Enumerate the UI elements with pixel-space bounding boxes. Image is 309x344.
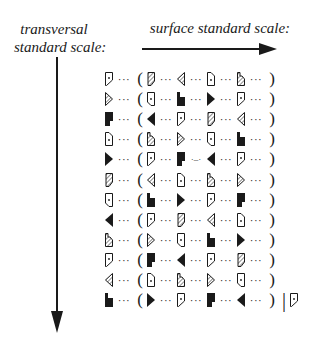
open-pentagon-dot-cut-icon bbox=[206, 71, 216, 87]
hatched-chevron-right-icon bbox=[206, 272, 216, 288]
black-wedge-left-icon bbox=[236, 292, 246, 308]
hatched-chevron-right-icon bbox=[236, 172, 246, 188]
hatched-slant-rect-icon bbox=[206, 111, 216, 127]
sequence-row: ···(············) bbox=[104, 129, 299, 149]
open-pentagon-dot-icon bbox=[206, 192, 216, 208]
ellipsis: ··· bbox=[156, 215, 176, 225]
ellipsis: ··· bbox=[246, 134, 266, 144]
transversal-label-line2: standard scale: bbox=[14, 38, 94, 56]
sequence-row: ···(············) bbox=[104, 169, 299, 189]
close-paren: ) bbox=[266, 232, 278, 248]
transversal-scale-arrow-line bbox=[56, 57, 58, 317]
ellipsis: ··· bbox=[246, 295, 266, 305]
connector-mark: ·–· bbox=[186, 154, 206, 164]
black-block-notch-icon bbox=[236, 192, 246, 208]
open-pentagon-dot-cut-icon bbox=[146, 272, 156, 288]
close-paren: ) bbox=[266, 131, 278, 147]
ellipsis: ··· bbox=[186, 74, 206, 84]
ellipsis: ··· bbox=[216, 195, 236, 205]
arrow-down-icon bbox=[51, 311, 63, 333]
symbol-sequence-grid: ···(············)···(············)···(··… bbox=[104, 69, 299, 310]
hatched-notch-icon bbox=[236, 71, 246, 87]
open-pentagon-dot-cut-icon bbox=[104, 131, 114, 147]
black-block-notch-icon bbox=[206, 292, 216, 308]
hatched-notch-icon bbox=[206, 172, 216, 188]
ellipsis: ··· bbox=[246, 94, 266, 104]
ellipsis: ··· bbox=[156, 275, 176, 285]
open-rect-dot-icon bbox=[206, 131, 216, 147]
ellipsis: ··· bbox=[216, 275, 236, 285]
ellipsis: ··· bbox=[186, 255, 206, 265]
ellipsis: ··· bbox=[216, 74, 236, 84]
ellipsis: ··· bbox=[156, 154, 176, 164]
open-paren: ( bbox=[134, 71, 146, 87]
ellipsis: ··· bbox=[114, 74, 134, 84]
black-block-notch-icon bbox=[146, 252, 156, 268]
ellipsis: ··· bbox=[114, 275, 134, 285]
ellipsis: ··· bbox=[216, 114, 236, 124]
ellipsis: ··· bbox=[246, 74, 266, 84]
open-paren: ( bbox=[134, 111, 146, 127]
ellipsis: ··· bbox=[156, 235, 176, 245]
ellipsis: ··· bbox=[246, 215, 266, 225]
open-paren: ( bbox=[134, 192, 146, 208]
ellipsis: ··· bbox=[216, 154, 236, 164]
ellipsis: ··· bbox=[114, 175, 134, 185]
open-paren: ( bbox=[134, 212, 146, 228]
surface-scale-label: surface standard scale: bbox=[140, 19, 300, 37]
black-wedge-left-icon bbox=[176, 252, 186, 268]
ellipsis: ··· bbox=[216, 295, 236, 305]
black-step-icon bbox=[104, 292, 114, 308]
ellipsis: ··· bbox=[156, 114, 176, 124]
hatched-wedge-left-icon bbox=[236, 111, 246, 127]
ellipsis: ··· bbox=[186, 94, 206, 104]
ellipsis: ··· bbox=[114, 134, 134, 144]
ellipsis: ··· bbox=[114, 235, 134, 245]
black-step-icon bbox=[146, 192, 156, 208]
ellipsis: ··· bbox=[156, 175, 176, 185]
black-step-icon bbox=[176, 91, 186, 107]
hatched-slant-rect-icon bbox=[236, 252, 246, 268]
hatched-slant-rect-icon bbox=[104, 172, 114, 188]
open-pentagon-dot-icon bbox=[236, 151, 246, 167]
open-paren: ( bbox=[134, 91, 146, 107]
open-pentagon-dot-icon bbox=[146, 212, 156, 228]
close-paren: ) bbox=[266, 252, 278, 268]
open-pentagon-dot-icon bbox=[104, 252, 114, 268]
close-paren: ) bbox=[266, 212, 278, 228]
close-paren: ) bbox=[266, 91, 278, 107]
open-pentagon-dot-icon bbox=[289, 292, 299, 308]
black-wedge-left-icon bbox=[206, 151, 216, 167]
ellipsis: ··· bbox=[186, 235, 206, 245]
open-paren: ( bbox=[134, 172, 146, 188]
ellipsis: ··· bbox=[246, 175, 266, 185]
black-wedge-right-icon bbox=[176, 192, 186, 208]
hatched-wedge-left-icon bbox=[146, 172, 156, 188]
close-paren: ) bbox=[266, 192, 278, 208]
open-pentagon-dot-icon bbox=[236, 91, 246, 107]
hatched-slant-rect-icon bbox=[176, 212, 186, 228]
open-pentagon-dot-icon bbox=[104, 71, 114, 87]
ellipsis: ··· bbox=[246, 154, 266, 164]
ellipsis: ··· bbox=[114, 215, 134, 225]
sequence-row: ···(············) bbox=[104, 89, 299, 109]
hatched-wedge-left-icon bbox=[176, 71, 186, 87]
black-wedge-left-icon bbox=[146, 111, 156, 127]
ellipsis: ··· bbox=[216, 134, 236, 144]
sequence-row: ···(····–·······) bbox=[104, 149, 299, 169]
open-paren: ( bbox=[134, 151, 146, 167]
ellipsis: ··· bbox=[114, 255, 134, 265]
ellipsis: ··· bbox=[114, 295, 134, 305]
open-rect-dot-icon bbox=[146, 91, 156, 107]
open-paren: ( bbox=[134, 292, 146, 308]
open-paren: ( bbox=[134, 232, 146, 248]
sequence-row: ···(············)| bbox=[104, 290, 299, 310]
transversal-label-line1: transversal bbox=[14, 20, 94, 38]
ellipsis: ··· bbox=[216, 215, 236, 225]
open-paren: ( bbox=[134, 252, 146, 268]
ellipsis: ··· bbox=[216, 235, 236, 245]
hatched-wedge-left-icon bbox=[206, 212, 216, 228]
hatched-chevron-right-icon bbox=[146, 232, 156, 248]
ellipsis: ··· bbox=[156, 255, 176, 265]
close-paren: ) bbox=[266, 272, 278, 288]
